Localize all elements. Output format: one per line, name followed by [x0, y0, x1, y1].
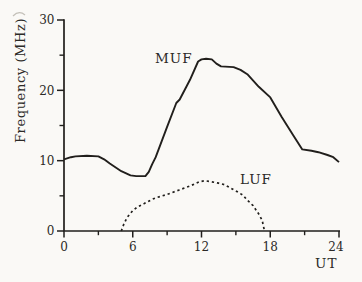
luf-curve — [121, 181, 264, 231]
frequency-chart: 010203006121824 — [0, 0, 362, 282]
scan-artifact — [13, 13, 25, 16]
x-tick-label-12: 12 — [194, 240, 209, 254]
luf-series-label: LUF — [240, 171, 272, 187]
chart-figure: 010203006121824 Frequency (MHz) UT MUF L… — [0, 0, 362, 282]
muf-curve — [64, 59, 339, 176]
x-tick-label-0: 0 — [60, 240, 68, 254]
x-tick-label-24: 24 — [328, 240, 344, 254]
y-tick-label-30: 30 — [39, 13, 54, 27]
x-axis-title: UT — [315, 255, 337, 271]
y-tick-label-20: 20 — [39, 84, 54, 98]
y-tick-label-0: 0 — [47, 224, 55, 238]
x-tick-label-18: 18 — [263, 240, 278, 254]
y-tick-label-10: 10 — [39, 154, 54, 168]
x-tick-label-6: 6 — [129, 240, 137, 254]
y-axis-title: Frequency (MHz) — [13, 21, 27, 143]
axes — [64, 19, 340, 231]
muf-series-label: MUF — [155, 50, 193, 66]
